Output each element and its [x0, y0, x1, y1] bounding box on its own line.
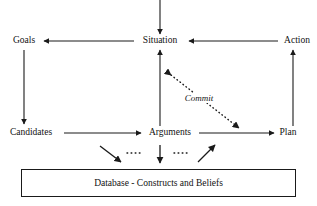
database-box[interactable]: Database - Constructs and Beliefs [21, 169, 296, 197]
diagram-canvas: Goals Situation Action Candidates Argume… [0, 0, 317, 206]
node-goals[interactable]: Goals [11, 35, 37, 46]
node-situation[interactable]: Situation [141, 35, 179, 46]
edge-label-commit: Commit [184, 93, 215, 103]
node-action[interactable]: Action [282, 35, 312, 46]
database-box-label: Database - Constructs and Beliefs [94, 178, 223, 188]
edge-db-left-down [100, 146, 121, 162]
node-candidates[interactable]: Candidates [8, 127, 54, 138]
node-arguments[interactable]: Arguments [147, 127, 193, 138]
node-plan[interactable]: Plan [278, 127, 299, 138]
edge-db-right-up [198, 145, 215, 162]
